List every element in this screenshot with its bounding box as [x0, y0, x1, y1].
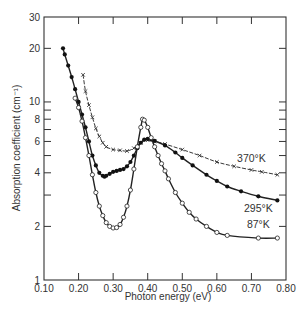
data-point — [166, 177, 170, 181]
y-tick-label: 10 — [29, 96, 41, 107]
data-point — [163, 169, 167, 173]
data-point — [215, 230, 219, 234]
data-point — [87, 139, 91, 143]
data-point — [225, 184, 229, 188]
x-tick-label: 0.30 — [103, 283, 123, 294]
y-tick-label: 6 — [34, 136, 40, 147]
data-point — [70, 75, 74, 79]
x-axis-label: Photon energy (eV) — [125, 291, 212, 302]
data-point — [156, 153, 160, 157]
data-point — [239, 189, 243, 193]
data-point — [139, 125, 143, 129]
data-point — [97, 204, 101, 208]
data-point — [128, 160, 132, 164]
data-point — [204, 224, 208, 228]
series-label: 87°K — [247, 218, 270, 230]
x-tick-label: 0.80 — [276, 283, 296, 294]
y-tick-label: 30 — [29, 12, 41, 23]
data-point — [139, 141, 143, 145]
data-point — [101, 213, 105, 217]
y-tick-label: 20 — [29, 43, 41, 54]
data-point — [191, 163, 195, 167]
series-label: 295°K — [244, 202, 273, 214]
data-point — [187, 210, 191, 214]
data-point — [135, 145, 139, 149]
y-tick-label: 8 — [34, 114, 40, 125]
data-point — [215, 179, 219, 183]
data-point — [142, 118, 146, 122]
data-point — [132, 167, 136, 171]
absorption-chart: 0.100.200.300.400.500.600.700.80 1246810… — [0, 0, 308, 322]
data-point — [121, 215, 125, 219]
y-tick-label: 2 — [34, 221, 40, 232]
data-point — [173, 190, 177, 194]
data-point — [149, 136, 153, 140]
data-point — [128, 188, 132, 192]
data-point — [125, 204, 129, 208]
data-point — [90, 173, 94, 177]
data-point — [118, 222, 122, 226]
data-point — [125, 164, 129, 168]
data-point — [180, 156, 184, 160]
series-label: 370°K — [237, 152, 266, 164]
data-point — [101, 141, 105, 145]
x-tick-label: 0.20 — [69, 283, 89, 294]
data-point — [180, 201, 184, 205]
data-point — [94, 190, 98, 194]
data-point — [173, 150, 177, 154]
data-point — [204, 173, 208, 177]
data-point — [146, 125, 150, 129]
data-point — [256, 236, 260, 240]
data-point — [94, 127, 98, 131]
data-point — [80, 119, 84, 123]
data-point — [104, 221, 108, 225]
data-point — [94, 163, 98, 167]
y-axis-label: Absorption coefficient (cm⁻¹) — [11, 85, 22, 212]
data-point — [121, 167, 125, 171]
data-point — [87, 153, 91, 157]
data-point — [159, 162, 163, 166]
plot-frame — [44, 17, 286, 280]
data-point — [163, 143, 167, 147]
data-point — [73, 96, 77, 100]
y-tick-label: 4 — [34, 167, 40, 178]
data-point — [76, 105, 80, 109]
x-tick-label: 0.70 — [242, 283, 262, 294]
data-point — [225, 233, 229, 237]
data-point — [256, 194, 260, 198]
data-point — [115, 225, 119, 229]
data-point — [98, 135, 102, 139]
data-point — [83, 136, 87, 140]
data-point — [97, 171, 101, 175]
data-point — [275, 236, 279, 240]
data-point — [63, 52, 67, 56]
data-point — [73, 87, 77, 91]
data-point — [66, 64, 70, 68]
y-tick-label: 1 — [34, 275, 40, 286]
data-point — [194, 217, 198, 221]
data-point — [153, 145, 157, 149]
data-point — [104, 145, 108, 149]
data-point — [61, 46, 65, 50]
data-point — [275, 198, 279, 202]
y-axis: 12468102030 — [29, 12, 286, 286]
